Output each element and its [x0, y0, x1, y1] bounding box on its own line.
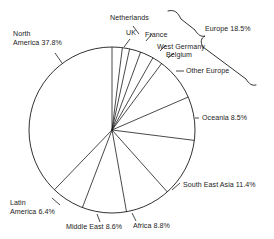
- leader-africa: [132, 213, 136, 221]
- label-north-america-line1: North: [13, 30, 31, 38]
- label-latin-america: Latin America 6.4%: [10, 199, 72, 216]
- label-netherlands: Netherlands: [110, 14, 149, 23]
- label-north-america-line2: America 37.8%: [13, 39, 62, 47]
- label-south-east-asia: South East Asia 11.4%: [183, 181, 256, 190]
- pie-slice-divider: [112, 130, 167, 192]
- label-middle-east: Middle East 8.6%: [66, 223, 122, 232]
- pie-slice-divider: [112, 97, 188, 130]
- pie-slice-divider: [82, 130, 112, 208]
- label-oceania: Oceania 8.5%: [202, 114, 247, 123]
- leader-middle-east: [97, 214, 100, 222]
- label-belgium: Belgium: [166, 51, 192, 60]
- label-north-america: North America 37.8%: [13, 30, 75, 47]
- pie-slice-divider: [54, 130, 112, 190]
- pie-slice-divider: [112, 130, 194, 140]
- pie-chart-figure: North America 37.8% Netherlands UK Franc…: [0, 0, 274, 239]
- label-latin-america-line1: Latin: [10, 199, 26, 207]
- leader-uk: [124, 39, 130, 47]
- label-europe-group: Europe 18.5%: [205, 25, 251, 34]
- pie-slice-divider: [112, 130, 127, 212]
- label-latin-america-line2: America 6.4%: [10, 208, 55, 216]
- label-other-europe: Other Europe: [186, 67, 229, 76]
- leader-north-america: [55, 53, 62, 63]
- pie-slices: [54, 47, 194, 212]
- label-uk: UK: [126, 29, 136, 38]
- label-france: France: [145, 31, 167, 40]
- pie-slice-divider: [112, 58, 153, 130]
- label-africa: Africa 8.8%: [133, 222, 170, 231]
